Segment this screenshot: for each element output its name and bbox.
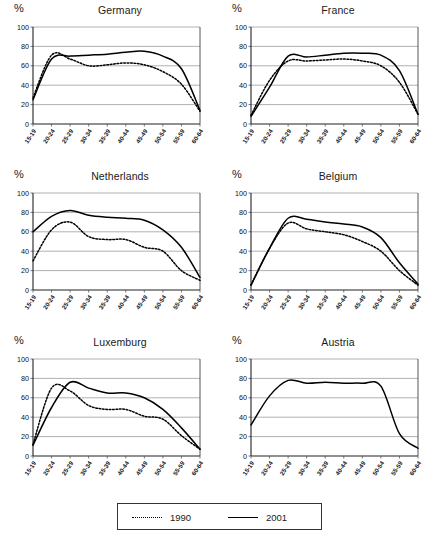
legend-entry-2001: 2001 bbox=[228, 504, 287, 531]
svg-text:100: 100 bbox=[17, 189, 29, 198]
svg-text:40-44: 40-44 bbox=[334, 459, 349, 476]
svg-text:50-54: 50-54 bbox=[153, 293, 168, 310]
svg-text:60-64: 60-64 bbox=[190, 459, 205, 476]
svg-text:60-64: 60-64 bbox=[408, 127, 423, 144]
svg-text:40: 40 bbox=[239, 247, 247, 256]
svg-text:100: 100 bbox=[235, 23, 247, 32]
svg-text:80: 80 bbox=[239, 42, 247, 51]
svg-text:40-44: 40-44 bbox=[334, 127, 349, 144]
svg-text:60-64: 60-64 bbox=[408, 293, 423, 310]
plot-area: 02040608010015-1920-2425-2930-3435-3940-… bbox=[218, 0, 436, 166]
chart-panel-luxemburg: %Luxemburg02040608010015-1920-2425-2930-… bbox=[0, 332, 218, 498]
svg-text:55-59: 55-59 bbox=[389, 459, 404, 476]
plot-area: 02040608010015-1920-2425-2930-3435-3940-… bbox=[218, 332, 436, 498]
svg-text:15-19: 15-19 bbox=[241, 127, 256, 144]
svg-text:40-44: 40-44 bbox=[116, 293, 131, 310]
svg-text:15-19: 15-19 bbox=[23, 127, 38, 144]
svg-text:100: 100 bbox=[235, 189, 247, 198]
svg-text:25-29: 25-29 bbox=[278, 127, 293, 144]
svg-text:35-39: 35-39 bbox=[97, 127, 112, 144]
chart-panel-france: %France02040608010015-1920-2425-2930-343… bbox=[218, 0, 436, 166]
svg-text:30-34: 30-34 bbox=[78, 459, 93, 476]
svg-text:60-64: 60-64 bbox=[190, 127, 205, 144]
chart-panel-germany: %Germany02040608010015-1920-2425-2930-34… bbox=[0, 0, 218, 166]
svg-text:50-54: 50-54 bbox=[153, 127, 168, 144]
series-line-2001 bbox=[33, 210, 200, 277]
svg-text:20: 20 bbox=[239, 100, 247, 109]
svg-text:60: 60 bbox=[21, 227, 29, 236]
svg-text:25-29: 25-29 bbox=[60, 459, 75, 476]
svg-text:20-24: 20-24 bbox=[41, 127, 56, 144]
svg-text:20-24: 20-24 bbox=[259, 459, 274, 476]
svg-text:60: 60 bbox=[21, 61, 29, 70]
svg-text:60: 60 bbox=[239, 61, 247, 70]
svg-text:20: 20 bbox=[21, 432, 29, 441]
svg-text:20-24: 20-24 bbox=[41, 293, 56, 310]
legend-swatch-solid-icon bbox=[228, 517, 258, 518]
svg-text:45-49: 45-49 bbox=[352, 127, 367, 144]
legend-entry-1990: 1990 bbox=[132, 504, 191, 531]
svg-text:40-44: 40-44 bbox=[116, 127, 131, 144]
svg-text:30-34: 30-34 bbox=[296, 127, 311, 144]
svg-text:40-44: 40-44 bbox=[334, 293, 349, 310]
svg-text:100: 100 bbox=[235, 355, 247, 364]
svg-text:55-59: 55-59 bbox=[389, 127, 404, 144]
svg-text:80: 80 bbox=[21, 374, 29, 383]
plot-area: 02040608010015-1920-2425-2930-3435-3940-… bbox=[0, 0, 218, 166]
svg-text:0: 0 bbox=[25, 120, 29, 129]
svg-text:25-29: 25-29 bbox=[278, 293, 293, 310]
svg-text:20: 20 bbox=[239, 266, 247, 275]
svg-text:20-24: 20-24 bbox=[41, 459, 56, 476]
plot-area: 02040608010015-1920-2425-2930-3435-3940-… bbox=[0, 166, 218, 332]
svg-text:35-39: 35-39 bbox=[315, 293, 330, 310]
svg-text:100: 100 bbox=[17, 355, 29, 364]
series-line-2001 bbox=[251, 53, 418, 116]
series-line-1990 bbox=[251, 59, 418, 115]
svg-text:15-19: 15-19 bbox=[241, 293, 256, 310]
svg-text:50-54: 50-54 bbox=[371, 127, 386, 144]
svg-text:20: 20 bbox=[239, 432, 247, 441]
series-line-2001 bbox=[251, 216, 418, 285]
svg-text:20: 20 bbox=[21, 100, 29, 109]
svg-text:0: 0 bbox=[25, 286, 29, 295]
svg-text:40: 40 bbox=[239, 413, 247, 422]
svg-text:60-64: 60-64 bbox=[190, 293, 205, 310]
svg-text:55-59: 55-59 bbox=[389, 293, 404, 310]
chart-panel-belgium: %Belgium02040608010015-1920-2425-2930-34… bbox=[218, 166, 436, 332]
svg-text:20: 20 bbox=[21, 266, 29, 275]
plot-area: 02040608010015-1920-2425-2930-3435-3940-… bbox=[0, 332, 218, 498]
svg-text:40: 40 bbox=[21, 81, 29, 90]
svg-text:25-29: 25-29 bbox=[60, 293, 75, 310]
svg-text:45-49: 45-49 bbox=[352, 293, 367, 310]
svg-text:25-29: 25-29 bbox=[60, 127, 75, 144]
svg-text:50-54: 50-54 bbox=[371, 293, 386, 310]
svg-text:60: 60 bbox=[21, 393, 29, 402]
svg-text:100: 100 bbox=[17, 23, 29, 32]
svg-text:45-49: 45-49 bbox=[352, 459, 367, 476]
svg-text:0: 0 bbox=[243, 120, 247, 129]
svg-text:30-34: 30-34 bbox=[296, 293, 311, 310]
svg-text:40: 40 bbox=[21, 247, 29, 256]
svg-text:15-19: 15-19 bbox=[23, 293, 38, 310]
svg-text:55-59: 55-59 bbox=[171, 459, 186, 476]
svg-text:60: 60 bbox=[239, 227, 247, 236]
chart-legend: 1990 2001 bbox=[117, 503, 322, 530]
svg-text:35-39: 35-39 bbox=[315, 127, 330, 144]
svg-text:45-49: 45-49 bbox=[134, 127, 149, 144]
svg-text:15-19: 15-19 bbox=[241, 459, 256, 476]
legend-label-2001: 2001 bbox=[266, 512, 287, 523]
legend-label-1990: 1990 bbox=[170, 512, 191, 523]
svg-text:20-24: 20-24 bbox=[259, 127, 274, 144]
svg-text:30-34: 30-34 bbox=[78, 127, 93, 144]
svg-text:80: 80 bbox=[239, 374, 247, 383]
svg-text:45-49: 45-49 bbox=[134, 293, 149, 310]
svg-text:50-54: 50-54 bbox=[371, 459, 386, 476]
svg-text:40-44: 40-44 bbox=[116, 459, 131, 476]
svg-text:45-49: 45-49 bbox=[134, 459, 149, 476]
svg-text:0: 0 bbox=[243, 452, 247, 461]
svg-text:50-54: 50-54 bbox=[153, 459, 168, 476]
svg-text:35-39: 35-39 bbox=[97, 293, 112, 310]
chart-grid: %Germany02040608010015-1920-2425-2930-34… bbox=[0, 0, 436, 498]
svg-text:60-64: 60-64 bbox=[408, 459, 423, 476]
chart-panel-austria: %Austria02040608010015-1920-2425-2930-34… bbox=[218, 332, 436, 498]
